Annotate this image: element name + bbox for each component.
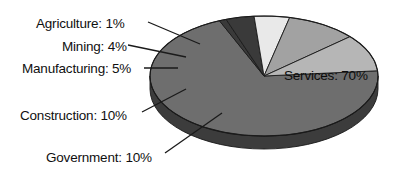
slice-label-construction: Construction: 10% — [20, 109, 127, 123]
slice-label-agriculture: Agriculture: 1% — [36, 17, 125, 31]
slice-label-government: Government: 10% — [46, 151, 152, 165]
pie-chart-figure: Agriculture: 1% Mining: 4% Manufacturing… — [0, 0, 394, 186]
slice-label-mining: Mining: 4% — [62, 40, 127, 54]
slice-label-services: Services: 70% — [284, 69, 368, 83]
slice-label-manufacturing: Manufacturing: 5% — [22, 62, 131, 76]
